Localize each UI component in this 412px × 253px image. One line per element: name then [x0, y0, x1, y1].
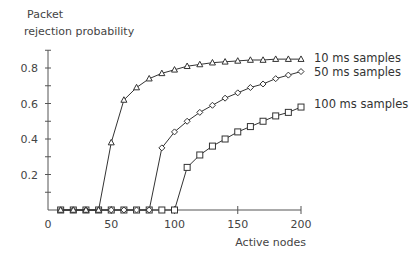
square-marker — [209, 143, 215, 149]
y-tick-label: 0.4 — [21, 133, 39, 146]
x-tick-label: 200 — [291, 218, 312, 231]
diamond-marker — [222, 95, 228, 101]
series-50-ms-samples — [58, 69, 304, 213]
y-tick-label: 0.8 — [21, 62, 39, 75]
square-marker — [273, 113, 279, 119]
x-tick-label: 150 — [227, 218, 248, 231]
y-tick-label: 0.2 — [21, 169, 39, 182]
series-group — [58, 56, 304, 213]
x-tick-label: 100 — [164, 218, 185, 231]
diamond-marker — [209, 102, 215, 108]
diamond-marker — [235, 90, 241, 96]
diamond-marker — [273, 76, 279, 82]
legend: 10 ms samples50 ms samples100 ms samples — [314, 51, 408, 111]
square-marker — [184, 164, 190, 170]
line-chart: 0.20.40.60.8050100150200Active nodes 10 … — [0, 0, 412, 253]
diamond-marker — [298, 69, 304, 75]
square-marker — [298, 104, 304, 110]
square-marker — [285, 109, 291, 115]
square-marker — [247, 124, 253, 130]
triangle-marker — [134, 84, 140, 90]
square-marker — [159, 207, 165, 213]
diamond-marker — [247, 85, 253, 91]
square-marker — [260, 118, 266, 124]
legend-label: 100 ms samples — [314, 97, 408, 111]
square-marker — [235, 129, 241, 135]
diamond-marker — [197, 109, 203, 115]
series-100-ms-samples — [58, 104, 304, 213]
axes: 0.20.40.60.8050100150200Active nodes — [21, 50, 312, 249]
diamond-marker — [260, 81, 266, 87]
x-tick-label: 50 — [104, 218, 118, 231]
diamond-marker — [285, 72, 291, 78]
square-marker — [172, 207, 178, 213]
square-marker — [197, 152, 203, 158]
x-tick-label: 0 — [45, 218, 52, 231]
x-axis-label: Active nodes — [235, 236, 306, 249]
square-marker — [222, 136, 228, 142]
triangle-marker — [108, 139, 114, 145]
y-tick-label: 0.6 — [21, 98, 39, 111]
legend-label: 50 ms samples — [314, 65, 401, 79]
legend-label: 10 ms samples — [314, 51, 401, 65]
